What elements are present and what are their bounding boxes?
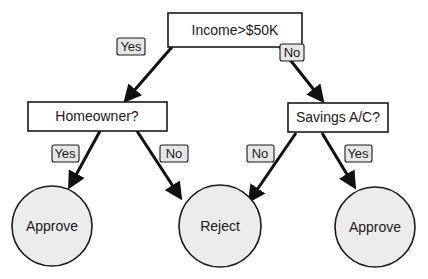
edge-label-root-yes: Yes <box>117 38 145 55</box>
leaf-approve-right-label: Approve <box>349 219 401 235</box>
decision-tree-diagram: Income>$50K Homeowner? Savings A/C? Appr… <box>0 0 428 279</box>
leaf-approve-left-label: Approve <box>26 218 78 234</box>
leaf-approve-right: Approve <box>335 187 415 267</box>
root-node-label: Income>$50K <box>192 22 279 38</box>
savings-node-label: Savings A/C? <box>296 109 380 125</box>
arrow-icon <box>250 133 296 200</box>
edge-label-savings-no: No <box>247 145 274 162</box>
arrow-icon <box>137 131 180 197</box>
edge-label-homeowner-yes: Yes <box>52 145 79 162</box>
edge-label-homeowner-no: No <box>160 145 188 162</box>
leaf-reject: Reject <box>179 185 261 267</box>
edge-homeowner-to-reject <box>137 131 180 197</box>
edge-savings-to-reject <box>250 133 296 200</box>
leaf-approve-left: Approve <box>12 186 92 266</box>
edge-label-text: No <box>252 146 269 161</box>
savings-node: Savings A/C? <box>288 103 388 132</box>
homeowner-node: Homeowner? <box>28 102 167 131</box>
homeowner-node-label: Homeowner? <box>55 108 138 124</box>
leaf-reject-label: Reject <box>200 218 240 234</box>
root-node: Income>$50K <box>168 13 302 47</box>
edge-label-text: No <box>284 45 301 60</box>
edge-label-text: Yes <box>54 146 76 161</box>
edge-label-text: No <box>166 146 183 161</box>
edge-label-savings-yes: Yes <box>345 145 372 162</box>
edge-label-text: Yes <box>120 39 142 54</box>
edge-label-root-no: No <box>280 44 304 61</box>
edge-label-text: Yes <box>347 146 369 161</box>
